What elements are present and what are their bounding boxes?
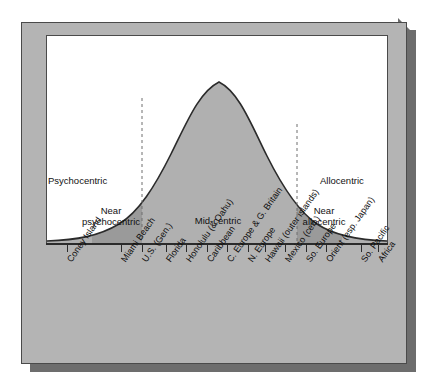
axis-tick: [207, 245, 208, 252]
plog-psychographic-figure: Psychocentric Allocentric Near psychocen…: [0, 0, 437, 389]
axis-tick: [306, 245, 307, 252]
axis-tick: [248, 245, 249, 252]
zone-label-psychocentric: Psychocentric: [48, 176, 107, 187]
axis-tick: [67, 245, 68, 252]
zone-label-allocentric: Allocentric: [320, 176, 364, 187]
axis-tick: [186, 245, 187, 252]
axis-tick: [166, 245, 167, 252]
axis-tick: [285, 245, 286, 252]
axis-tick: [227, 245, 228, 252]
axis-tick: [361, 245, 362, 252]
axis-tick: [142, 245, 143, 252]
axis-tick: [121, 245, 122, 252]
slab-right-face: [407, 30, 416, 372]
axis-tick: [326, 245, 327, 252]
slab-bottom-face: [30, 363, 416, 372]
